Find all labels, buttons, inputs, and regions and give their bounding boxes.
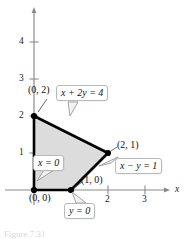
callout-constraint-x-minus-y: x − y = 1 — [115, 158, 162, 174]
vertex-dot-2-1 — [105, 150, 111, 156]
leader-vertex-0-2 — [38, 99, 47, 112]
vertex-label-2-1: (2, 1) — [117, 139, 139, 150]
vertex-label-0-2: (0, 2) — [28, 84, 50, 95]
tail-x-plus-2y — [68, 102, 78, 116]
y-tick-label-3: 3 — [19, 73, 24, 83]
vertex-dot-1-0 — [68, 187, 74, 193]
figure-caption: Figure 7.31 — [4, 229, 46, 239]
y-tick-label-2: 2 — [19, 110, 24, 120]
vertex-label-0-0: (0, 0) — [29, 192, 51, 203]
tail-y-equals-0 — [72, 192, 86, 203]
figure-linear-programming-region: 1 2 3 4 2 3 x (0, 2) (2, 1) (1, 0) (0, 0… — [0, 0, 188, 239]
vertex-dot-0-2 — [31, 113, 37, 119]
callout-constraint-x-plus-2y: x + 2y = 4 — [56, 85, 108, 101]
vertex-label-1-0: (1, 0) — [81, 174, 103, 185]
x-tick-label-2: 2 — [105, 194, 110, 204]
x-axis-label: x — [175, 184, 179, 194]
y-tick-label-4: 4 — [19, 36, 24, 46]
y-tick-label-1: 1 — [19, 147, 24, 157]
callout-constraint-y-equals-0: y = 0 — [64, 203, 95, 219]
callout-constraint-x-equals-0: x = 0 — [33, 155, 64, 171]
x-tick-label-3: 3 — [142, 194, 147, 204]
